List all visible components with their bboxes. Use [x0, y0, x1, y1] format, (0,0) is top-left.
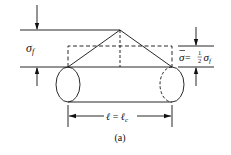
- fiber-stress-diagram: σf σ = 1 2 σf ℓ = ℓc (a): [0, 0, 231, 155]
- avg-sigma-f: σf: [204, 51, 212, 65]
- cylinder-right-end-hidden: [160, 67, 172, 102]
- arrowhead-down-icon: [35, 23, 39, 30]
- cylinder-left-end: [56, 67, 80, 102]
- arrowhead-right-icon: [164, 114, 171, 118]
- arrowhead-down-icon: [194, 39, 198, 46]
- fraction-numerator: 1: [198, 49, 201, 56]
- arrowhead-up-icon: [35, 67, 39, 74]
- length-label: ℓ = ℓc: [106, 111, 129, 124]
- sigma-f-label: σf: [26, 41, 36, 56]
- cylinder-right-end-visible: [172, 67, 184, 102]
- equals-sign: =: [185, 52, 191, 63]
- average-stress-label: σ = 1 2 σf: [179, 49, 212, 65]
- fraction-denominator: 2: [198, 57, 201, 64]
- arrowhead-up-icon: [194, 67, 198, 74]
- figure-caption: (a): [114, 132, 125, 144]
- arrowhead-left-icon: [69, 114, 76, 118]
